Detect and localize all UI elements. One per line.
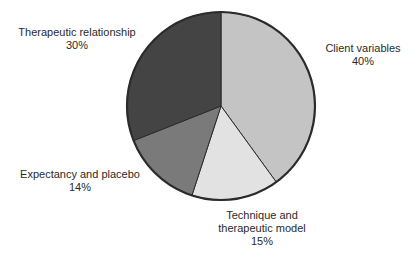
- label-technique-model-line1: Technique and: [218, 209, 305, 222]
- label-technique-model-line2: therapeutic model: [218, 222, 305, 235]
- label-client-variables-pct: 40%: [325, 55, 400, 68]
- label-therapeutic-relationship-pct: 30%: [18, 39, 135, 52]
- label-client-variables: Client variables 40%: [325, 42, 400, 68]
- label-technique-model-pct: 15%: [218, 235, 305, 248]
- label-expectancy-placebo-pct: 14%: [20, 181, 140, 194]
- label-technique-model: Technique and therapeutic model 15%: [218, 209, 305, 248]
- label-expectancy-placebo: Expectancy and placebo 14%: [20, 168, 140, 194]
- label-therapeutic-relationship-name: Therapeutic relationship: [18, 26, 135, 39]
- label-client-variables-name: Client variables: [325, 42, 400, 55]
- label-therapeutic-relationship: Therapeutic relationship 30%: [18, 26, 135, 52]
- label-expectancy-placebo-name: Expectancy and placebo: [20, 168, 140, 181]
